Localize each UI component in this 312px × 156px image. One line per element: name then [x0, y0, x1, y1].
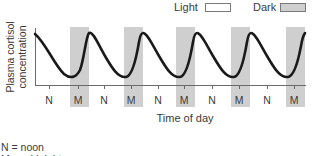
tick-label-midnight: M	[70, 94, 86, 106]
tick-label-noon: N	[41, 94, 57, 106]
tick-label-noon: N	[150, 94, 166, 106]
tick-label-midnight: M	[176, 94, 192, 106]
note-noon: N = noon	[1, 141, 44, 153]
cortisol-chart	[0, 0, 312, 156]
tick-label-midnight: M	[123, 94, 139, 106]
note-midnight: M = midnight	[1, 153, 61, 156]
tick-label-noon: N	[96, 94, 112, 106]
tick-label-midnight: M	[286, 94, 302, 106]
tick-label-midnight: M	[231, 94, 247, 106]
tick-label-noon: N	[259, 94, 275, 106]
tick-label-noon: N	[204, 94, 220, 106]
x-axis-title: Time of day	[130, 112, 240, 125]
